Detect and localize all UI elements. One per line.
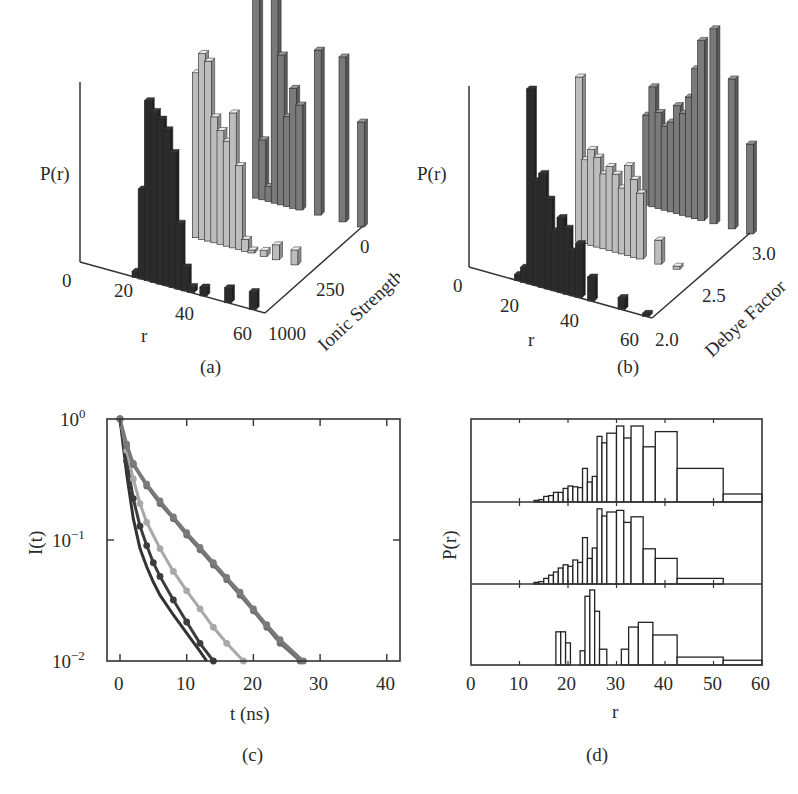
histogram-bin [655,432,677,502]
histogram-bin [592,476,597,502]
d-xtick-50: 50 [703,673,722,694]
bar-3d [655,237,665,264]
histogram-bin [655,558,677,584]
panel-d-plot: 0 10 20 30 40 50 60 r P(r) [420,400,798,794]
d-xtick-0: 0 [466,673,476,694]
c-ytick-1: 10−1 [52,527,85,551]
data-point [197,544,204,551]
histogram-bin [643,447,655,502]
bar-3d [249,289,259,310]
panel-b-plot: P(r) 0 20 40 60 r 3.0 2.5 2.0 Debye Fact… [400,0,798,400]
bar-3d [314,47,324,215]
histogram-bin [597,436,602,502]
caption-c: (c) [242,744,263,766]
histogram-bin [578,562,583,584]
c-xtick-0: 0 [114,673,124,694]
panel-a-3d-bar-chart: P(r) 0 20 40 60 r 0 250 1000 Ionic Stren… [0,0,400,400]
histogram-bin [568,566,573,584]
data-point [157,545,164,552]
histogram-bin [602,443,607,502]
histogram-bin [677,468,723,502]
histogram-bin [580,651,585,665]
histogram-bin [583,468,588,502]
a-ytick-0: 0 [360,236,370,257]
b-xtick-40: 40 [560,310,579,331]
a-z-zero: 0 [62,270,72,291]
histogram-bin [587,482,592,502]
bar-3d [710,26,720,224]
histogram-bin [607,433,617,502]
bar-3d [698,37,708,220]
c-xtick-30: 30 [309,673,328,694]
a-xtick-40: 40 [175,303,194,324]
bar-3d [575,241,585,298]
histogram-bin [583,538,588,584]
data-point [237,589,244,596]
histogram-bin [573,560,578,584]
panel-d-histograms: 0 10 20 30 40 50 60 r P(r) (d) [420,400,798,794]
histogram-bin [638,622,653,665]
bar-3d [291,247,301,265]
b-z-zero: 0 [453,275,463,296]
data-point [277,636,284,643]
d-xtick-40: 40 [654,673,673,694]
histogram-bin [561,632,566,665]
a-xtick-60: 60 [233,323,252,344]
data-point [183,619,190,626]
histogram-bin [723,494,762,502]
a-xlabel: r [141,325,148,346]
data-point [137,523,144,530]
histogram-bin [624,522,631,584]
data-point [143,519,150,526]
a-ytick-1000: 1000 [268,323,306,344]
histogram-bin [556,632,561,665]
bar-3d [673,263,683,269]
bar-3d [273,242,283,260]
d-xtick-10: 10 [509,673,528,694]
b-xtick-20: 20 [500,295,519,316]
b-ytick-3.0: 3.0 [752,243,776,264]
histogram-bin [590,590,595,665]
panel-a-plot: P(r) 0 20 40 60 r 0 250 1000 Ionic Stren… [0,0,400,400]
data-point [197,605,204,612]
histogram-bin [568,486,573,502]
data-point [183,587,190,594]
histogram-bin [643,549,655,584]
d-xtick-60: 60 [751,673,770,694]
c-xtick-40: 40 [376,673,395,694]
c-xtick-10: 10 [176,673,195,694]
b-ytick-2.0: 2.0 [655,329,679,350]
bar-3d [747,141,757,234]
histogram-bin [544,496,549,502]
data-point [170,596,177,603]
data-point [130,460,137,467]
c-xlabel: t (ns) [230,703,270,725]
b-xlabel: r [528,329,535,350]
bar-3d [618,295,628,310]
histogram-bin [563,565,568,584]
data-point [223,640,230,647]
bar-3d [225,285,235,303]
histogram-bin [607,512,617,584]
bar-3d [728,76,738,229]
bar-3d [260,247,270,256]
d-ylabel: P(r) [439,530,461,560]
caption-a: (a) [200,356,221,378]
histogram-bin [592,548,597,584]
a-ytick-250: 250 [316,279,345,300]
d-xlabel: r [612,701,619,722]
histogram-bin [573,487,578,502]
c-ytick-2: 10−2 [52,648,85,672]
histogram-bin [653,635,677,665]
histogram-bin [597,509,602,584]
histogram-bin [549,496,554,502]
histogram-bin [631,517,643,584]
data-point [210,624,217,631]
c-ytick-labels: 100 10−1 10−2 [52,406,86,672]
data-point [137,500,144,507]
data-point [250,605,257,612]
data-point [183,529,190,536]
histogram-bin [558,492,563,502]
histogram-bin [602,516,607,584]
bar-3d [236,163,246,250]
